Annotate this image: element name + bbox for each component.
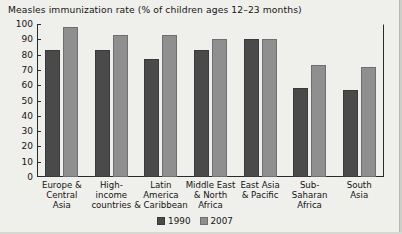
- legend-item-2007: 2007: [200, 216, 233, 226]
- bar-1990: [244, 39, 259, 177]
- y-axis-tick-mark: [37, 131, 41, 132]
- bar-1990: [293, 88, 308, 177]
- x-axis-category-label-line: Africa: [181, 200, 241, 210]
- y-axis-tick-label: 40: [3, 111, 33, 121]
- y-axis-tick-label: 70: [3, 65, 33, 75]
- bar-group: [136, 24, 186, 177]
- y-axis-tick-mark: [37, 162, 41, 163]
- bar-group: [87, 24, 137, 177]
- chart-figure: Measles immunization rate (% of children…: [0, 0, 402, 234]
- chart-title: Measles immunization rate (% of children…: [8, 4, 302, 15]
- y-axis-tick-mark: [37, 55, 41, 56]
- y-axis-tick-mark: [37, 39, 41, 40]
- bar-2007: [262, 39, 277, 177]
- bar-2007: [311, 65, 326, 177]
- bar-2007: [162, 35, 177, 177]
- legend-swatch-icon: [200, 217, 208, 225]
- x-axis-category-label-line: Africa: [280, 200, 340, 210]
- bar-2007: [212, 39, 227, 177]
- bar-group: [186, 24, 236, 177]
- bar-group: [334, 24, 384, 177]
- y-axis-tick-label: 90: [3, 34, 33, 44]
- bar-group: [235, 24, 285, 177]
- bar-1990: [95, 50, 110, 177]
- y-axis-tick-label: 20: [3, 141, 33, 151]
- y-axis-tick-label: 80: [3, 50, 33, 60]
- legend-item-1990: 1990: [157, 216, 190, 226]
- y-axis-tick-label: 10: [3, 157, 33, 167]
- bar-2007: [361, 67, 376, 177]
- x-axis-category-label: SouthAsia: [329, 180, 389, 200]
- y-axis-tick-label: 60: [3, 80, 33, 90]
- y-axis-tick-mark: [37, 116, 41, 117]
- y-axis-tick-mark: [37, 85, 41, 86]
- bar-2007: [63, 27, 78, 177]
- chart-legend: 19902007: [0, 216, 390, 226]
- y-axis-tick-label: 100: [3, 19, 33, 29]
- bar-1990: [194, 50, 209, 177]
- x-axis-category-label-line: Asia: [329, 190, 389, 200]
- bar-group: [285, 24, 335, 177]
- y-axis-tick-mark: [37, 24, 41, 25]
- y-axis-tick-label: 0: [3, 172, 33, 182]
- bar-1990: [343, 90, 358, 177]
- page-edge-bottom: [0, 232, 402, 234]
- legend-swatch-icon: [157, 217, 165, 225]
- legend-label: 1990: [168, 216, 190, 226]
- y-axis-tick-mark: [37, 70, 41, 71]
- legend-label: 2007: [211, 216, 233, 226]
- bar-2007: [113, 35, 128, 177]
- bar-group: [37, 24, 87, 177]
- y-axis-tick-mark: [37, 146, 41, 147]
- x-axis-category-labels: Europe &CentralAsiaHigh-incomecountriesL…: [37, 180, 384, 220]
- plot-area: [37, 24, 384, 177]
- bar-1990: [45, 50, 60, 177]
- bar-1990: [144, 59, 159, 177]
- x-axis-category-label-line: South: [329, 180, 389, 190]
- y-axis-tick-label: 50: [3, 96, 33, 106]
- y-axis-tick-mark: [37, 101, 41, 102]
- y-axis-tick-label: 30: [3, 126, 33, 136]
